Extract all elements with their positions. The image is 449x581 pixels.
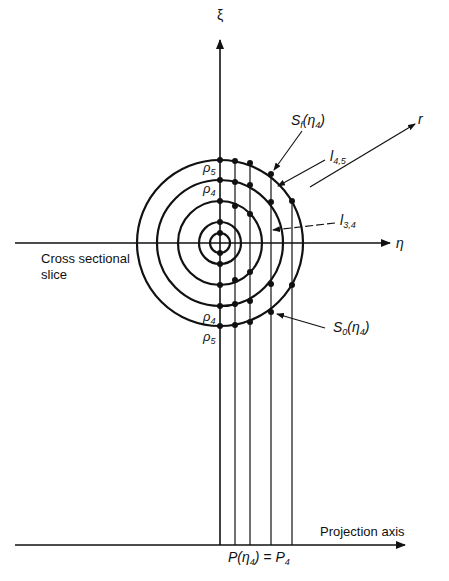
- s0-label: S0(η4): [333, 320, 369, 337]
- cross-section-label: Cross sectional: [41, 252, 130, 265]
- s0-leader: [277, 314, 325, 328]
- xi-axis-label: ξ: [217, 8, 223, 22]
- l34-label: l3,4: [340, 213, 356, 230]
- cross-section-label-2: slice: [41, 268, 67, 281]
- rho5-top-label: ρ5: [203, 161, 215, 177]
- rho4-top-label: ρ4: [203, 182, 215, 198]
- projection-rays: [235, 160, 292, 545]
- rho4-bottom-label: ρ4: [203, 310, 215, 326]
- l45-label: l4,5: [330, 149, 346, 166]
- sf-label: Sf(η4): [291, 113, 325, 130]
- eta-axis-label: η: [396, 236, 404, 250]
- projection-axis-label: Projection axis: [320, 525, 405, 538]
- diagram-canvas: [0, 0, 449, 581]
- projection-equation: P(η4) = P4: [228, 550, 290, 567]
- r-axis: [310, 124, 415, 187]
- r-axis-label: r: [418, 112, 423, 126]
- rho5-bottom-label: ρ5: [203, 330, 215, 346]
- sf-leader: [274, 131, 302, 170]
